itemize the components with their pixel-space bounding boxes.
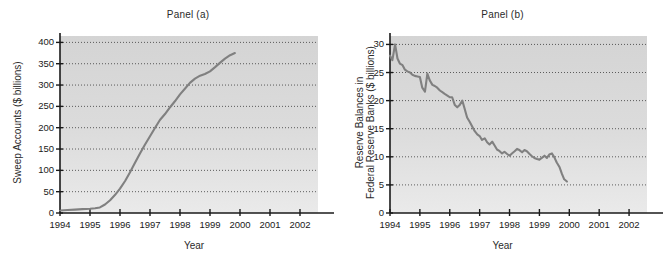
x-tick-label: 1995 — [74, 219, 106, 230]
x-tick-label: 2002 — [284, 219, 316, 230]
y-tick-label: 400 — [22, 36, 54, 47]
y-tick-label: 15 — [352, 123, 384, 134]
y-tick-label: 250 — [22, 100, 54, 111]
y-tick-label: 20 — [352, 95, 384, 106]
y-tick-label: 50 — [22, 186, 54, 197]
x-tick-label: 2002 — [613, 219, 645, 230]
y-tick-label: 0 — [22, 207, 54, 218]
x-tick-label: 1999 — [194, 219, 226, 230]
x-tick-label: 2000 — [553, 219, 585, 230]
x-tick-label: 1997 — [134, 219, 166, 230]
x-tick-label: 1996 — [434, 219, 466, 230]
y-tick-label: 0 — [352, 207, 384, 218]
y-tick-label: 150 — [22, 143, 54, 154]
x-tick-label: 2001 — [254, 219, 286, 230]
y-tick-label: 25 — [352, 67, 384, 78]
y-tick-label: 300 — [22, 79, 54, 90]
x-tick-label: 1998 — [494, 219, 526, 230]
panel-b-x-axis-title: Year — [340, 240, 665, 251]
y-tick-label: 100 — [22, 164, 54, 175]
x-tick-label: 1994 — [374, 219, 406, 230]
x-tick-label: 1995 — [404, 219, 436, 230]
x-tick-label: 1999 — [523, 219, 555, 230]
x-tick-label: 2001 — [583, 219, 615, 230]
x-tick-label: 1997 — [464, 219, 496, 230]
x-tick-label: 1994 — [44, 219, 76, 230]
x-tick-label: 2000 — [224, 219, 256, 230]
y-tick-label: 5 — [352, 179, 384, 190]
y-tick-label: 10 — [352, 151, 384, 162]
figure-container: Panel (a) Sweep Accounts ($ billions) Ye… — [0, 0, 665, 260]
x-tick-label: 1996 — [104, 219, 136, 230]
x-tick-label: 1998 — [164, 219, 196, 230]
y-tick-label: 30 — [352, 38, 384, 49]
y-tick-label: 350 — [22, 58, 54, 69]
panel-a-x-axis-title: Year — [0, 240, 364, 251]
y-tick-label: 200 — [22, 122, 54, 133]
